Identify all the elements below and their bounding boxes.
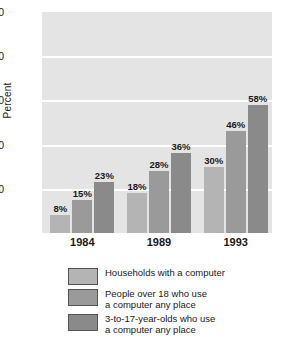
legend-swatch (68, 314, 98, 331)
y-tick-label: 60 (0, 95, 4, 105)
y-tick-label: 80 (0, 51, 4, 61)
bar-chart-figure: Percent 20406080100 8%15%23%18%28%36%30%… (0, 0, 281, 344)
bar-value-label: 23% (95, 171, 114, 181)
bar: 58% (248, 105, 268, 233)
bar-value-label: 15% (73, 189, 92, 199)
bar-value-label: 18% (127, 182, 146, 192)
gridline (42, 100, 272, 102)
bar-value-label: 30% (204, 156, 223, 166)
bar: 46% (226, 131, 246, 233)
bar-value-label: 46% (226, 120, 245, 130)
bar: 18% (127, 193, 147, 233)
bar: 15% (72, 200, 92, 233)
x-tick-label: 1989 (119, 236, 199, 248)
legend-swatch (68, 289, 98, 306)
bar-value-label: 36% (171, 142, 190, 152)
bar: 23% (94, 182, 114, 233)
legend-item: People over 18 who use a computer any pl… (68, 288, 268, 310)
y-tick-label: 40 (0, 140, 4, 150)
x-tick-label: 1993 (196, 236, 276, 248)
bar-value-label: 28% (149, 160, 168, 170)
y-tick-label: 20 (0, 184, 4, 194)
legend-item: Households with a computer (68, 267, 268, 285)
bar-value-label: 8% (53, 204, 67, 214)
bar: 28% (149, 171, 169, 233)
bar: 8% (50, 215, 70, 233)
legend-label: Households with a computer (105, 267, 225, 279)
x-tick-label: 1984 (42, 236, 122, 248)
chart-legend: Households with a computerPeople over 18… (68, 267, 268, 338)
bar: 30% (204, 167, 224, 233)
y-tick-label: 100 (0, 7, 4, 17)
bar-value-label: 58% (248, 94, 267, 104)
legend-swatch (68, 268, 98, 285)
legend-label: People over 18 who use a computer any pl… (105, 288, 207, 310)
bar: 36% (171, 153, 191, 233)
legend-item: 3-to-17-year-olds who use a computer any… (68, 313, 268, 335)
legend-label: 3-to-17-year-olds who use a computer any… (105, 313, 215, 335)
gridline (42, 56, 272, 58)
plot-area: 8%15%23%18%28%36%30%46%58% (42, 12, 272, 233)
